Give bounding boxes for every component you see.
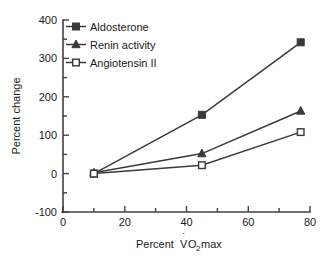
data-point-marker	[91, 170, 98, 177]
y-tick-label-400: 400	[39, 14, 57, 26]
x-tick-label-60: 60	[242, 216, 254, 228]
legend-label-aldosterone: Aldosterone	[90, 21, 149, 33]
data-point-marker	[198, 111, 205, 118]
x-tick-label-20: 20	[119, 216, 131, 228]
y-tick-label-100: 100	[39, 129, 57, 141]
x-axis-major-ticks	[63, 206, 310, 212]
legend-item-angiotensin-ii: Angiotensin II	[66, 57, 157, 69]
x-axis-title-v: V	[180, 238, 188, 250]
data-point-marker	[297, 129, 304, 136]
legend-label-angiotensin-ii: Angiotensin II	[90, 57, 157, 69]
legend-item-renin-activity: Renin activity	[66, 39, 156, 51]
data-point-marker	[297, 107, 305, 115]
legend-label-renin-activity: Renin activity	[90, 39, 156, 51]
data-point-marker	[199, 162, 206, 169]
y-axis-title: Percent change	[10, 77, 22, 154]
data-point-marker	[297, 39, 304, 46]
x-axis-title: Percent ˙ V O 2 max	[136, 231, 222, 253]
x-axis-title-suffix: max	[201, 238, 222, 250]
legend-marker-open-square	[73, 59, 80, 66]
x-tick-label-0: 0	[60, 216, 66, 228]
legend-marker-filled-square	[73, 23, 80, 30]
x-axis-title-prefix: Percent	[136, 238, 174, 250]
line-chart: 400 300 200 100 0 -100 0 20 40 60 80 Per…	[0, 0, 333, 261]
y-tick-label-200: 200	[39, 91, 57, 103]
x-axis-tick-labels: 0 20 40 60 80	[60, 216, 316, 228]
y-tick-label-300: 300	[39, 52, 57, 64]
legend-item-aldosterone: Aldosterone	[66, 21, 149, 33]
y-axis-tick-labels: 400 300 200 100 0 -100	[35, 14, 57, 218]
chart-figure: 400 300 200 100 0 -100 0 20 40 60 80 Per…	[0, 0, 333, 261]
y-tick-label-minus100: -100	[35, 206, 57, 218]
x-tick-label-40: 40	[180, 216, 192, 228]
chart-legend: Aldosterone Renin activity Angiotensin I…	[66, 21, 157, 69]
y-tick-label-0: 0	[51, 168, 57, 180]
series-angiotensin-ii	[91, 129, 304, 177]
x-tick-label-80: 80	[304, 216, 316, 228]
